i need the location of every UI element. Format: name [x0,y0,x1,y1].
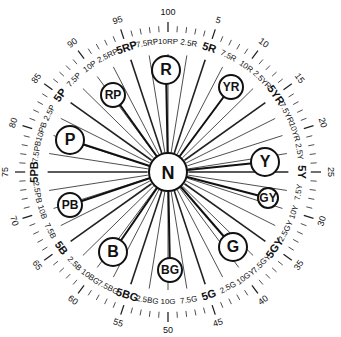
principal-hue-label: GY [259,191,276,205]
hue-circle-diagram: 2.5R5R7.5R10R2.5YR5YR7.5YR10YR2.5Y5Y7.5Y… [0,0,341,337]
hue-step-label: 7.5R [219,48,238,64]
tick-mark [308,198,314,199]
hue-step-label: 10RP [158,37,178,46]
tick-mark [88,49,91,54]
tick-mark [53,261,58,265]
tick-mark [113,36,115,42]
tick-mark [272,72,276,76]
principal-hue-label: YR [223,80,240,94]
hue-step-label: 5G [200,287,218,303]
hue-number: 85 [29,71,43,85]
hue-step-label: 2.5G [218,280,238,296]
tick-mark [259,60,263,65]
hue-number: 55 [112,316,125,329]
tick-mark [78,285,84,293]
tick-mark [306,207,312,208]
tick-mark [42,247,47,250]
tick-mark [195,310,196,316]
neutral-label: N [162,163,175,183]
hue-number: 30 [315,215,328,228]
hue-step-label: 2.5PB [31,181,43,204]
tick-mark [22,145,28,146]
hue-ray [185,184,266,242]
tick-mark [73,280,77,285]
hue-number: 15 [293,71,307,85]
hue-number: 70 [8,215,21,228]
tick-mark [310,190,316,191]
tick-mark [30,118,36,120]
hue-number: 95 [111,14,124,27]
hue-step-label: 10Y [287,203,300,220]
tick-mark [42,94,47,97]
hue-step-label: 7.5Y [293,183,305,201]
tick-mark [310,154,316,155]
hue-step-label: 2.5BG [135,294,159,306]
tick-mark [140,29,141,35]
tick-mark [293,102,298,105]
tick-mark [289,94,294,97]
hue-number: 100 [160,7,175,17]
hue-step-label: 10G [160,297,175,306]
tick-mark [131,308,133,314]
tick-mark [44,254,52,260]
hue-number: 80 [7,116,20,129]
hue-step-label: 2.5Y [294,143,306,161]
hue-step-label: 2.5R [180,37,198,49]
tick-mark [186,311,187,317]
tick-mark [289,247,294,250]
tick-mark [245,290,248,295]
tick-mark [186,27,187,33]
tick-mark [96,44,99,49]
tick-mark [237,295,240,300]
tick-mark [204,308,206,314]
tick-mark [229,299,232,304]
tick-mark [212,305,215,315]
hue-step-label: 7.5RP [136,37,159,49]
tick-mark [113,302,115,308]
tick-mark [20,154,26,155]
hue-number: 90 [65,36,79,50]
tick-mark [33,110,39,113]
principal-hue-label: G [227,238,239,255]
hue-number: 35 [292,258,306,272]
hue-number: 40 [256,293,270,307]
hue-step-label: 10B [36,204,49,220]
hue-number: 45 [212,316,225,329]
tick-mark [308,145,314,146]
tick-mark [284,84,292,90]
hue-step-label: 5PB [28,161,40,182]
hue-step-label: 7.5P [65,71,83,89]
tick-mark [66,66,70,70]
principal-hue-label: BG [161,263,179,277]
tick-mark [304,126,314,129]
tick-mark [59,72,63,76]
tick-mark [88,290,91,295]
hue-step-label: 10P [81,59,98,75]
tick-mark [53,79,58,83]
tick-mark [195,29,196,35]
tick-mark [44,84,52,90]
hue-number: 50 [163,325,173,335]
tick-mark [22,198,28,199]
tick-mark [73,60,77,65]
tick-mark [121,305,124,315]
hue-step-label: 7.5G [179,294,198,306]
tick-mark [237,44,240,49]
tick-mark [66,274,70,278]
tick-mark [38,102,43,105]
hue-step-label: 10R [238,59,255,75]
tick-mark [22,126,32,129]
tick-mark [24,207,30,208]
tick-mark [278,79,283,83]
hue-step-label: 5B [53,239,71,257]
tick-mark [278,261,283,265]
principal-hue-label: RP [105,88,122,102]
hue-step-label: 5R [201,39,218,55]
tick-mark [105,299,108,304]
hue-step-label: 5P [51,86,69,104]
hue-step-label: 10BG [79,267,101,286]
tick-mark [149,27,150,33]
tick-mark [297,232,303,235]
tick-mark [131,31,133,37]
neutral-center: N [149,153,187,191]
